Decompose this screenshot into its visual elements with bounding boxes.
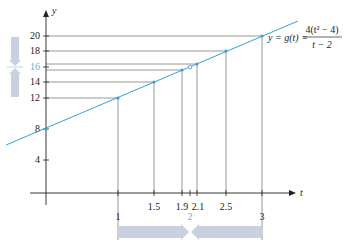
t-convergence-arrows [118, 224, 262, 240]
svg-text:16: 16 [30, 61, 40, 72]
y-intercept-point [45, 128, 48, 131]
function-line [6, 21, 298, 145]
svg-text:20: 20 [30, 30, 40, 41]
t-axis-arrow-icon [289, 190, 296, 196]
interval-label-left: 1 [116, 211, 121, 222]
svg-text:2.5: 2.5 [220, 201, 233, 212]
svg-text:18: 18 [30, 45, 40, 56]
interval-label-right: 3 [260, 211, 265, 222]
svg-text:12: 12 [30, 92, 40, 103]
t-axis-label: t [300, 187, 303, 198]
y-axis-label: y [51, 5, 57, 16]
svg-text:4(t² − 4): 4(t² − 4) [305, 24, 338, 36]
axes [30, 14, 290, 205]
svg-text:t − 2: t − 2 [312, 39, 332, 50]
svg-text:14: 14 [30, 76, 40, 87]
svg-text:2.1: 2.1 [192, 201, 205, 212]
svg-text:1.5: 1.5 [148, 201, 161, 212]
svg-text:4: 4 [35, 154, 40, 165]
svg-text:1.9: 1.9 [176, 201, 189, 212]
function-label: y = g(t) = 4(t² − 4) t − 2 [267, 24, 342, 50]
chart: y t 20 18 16 14 12 8 4 1.5 1.9 2.1 2.5 [0, 0, 348, 248]
svg-text:y = g(t) =: y = g(t) = [267, 32, 308, 44]
hole-point [188, 65, 192, 69]
y-axis-arrow-icon [43, 10, 49, 17]
y-tick-labels: 20 18 16 14 12 8 4 [30, 30, 40, 165]
interval-label-mid: 2 [188, 211, 193, 222]
